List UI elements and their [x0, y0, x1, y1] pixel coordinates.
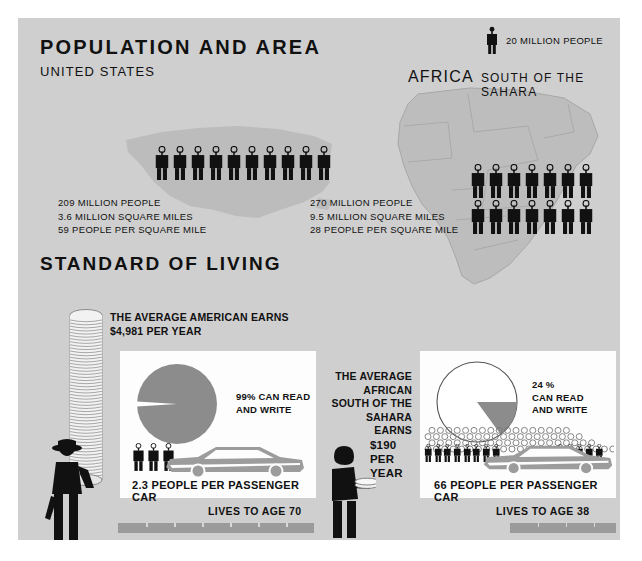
person-icon — [524, 164, 540, 198]
person-icon — [542, 200, 558, 234]
person-icon — [578, 200, 594, 234]
stat-area-africa: 9.5 MILLION SQUARE MILES — [310, 210, 458, 224]
person-icon — [434, 441, 443, 465]
literacy-us-line2: AND WRITE — [236, 404, 310, 417]
literacy-af-line1: 24 % — [532, 379, 588, 392]
person-icon — [424, 441, 433, 465]
legend: 20 MILLION PEOPLE — [485, 26, 603, 54]
decade-tick — [538, 523, 540, 527]
page-title: POPULATION AND AREA — [40, 36, 321, 59]
person-icon — [244, 146, 260, 180]
literacy-label-us: 99% CAN READ AND WRITE — [236, 391, 310, 416]
person-icon — [463, 441, 472, 465]
person-icon — [226, 146, 242, 180]
decade-tick — [566, 523, 568, 527]
person-icon — [506, 200, 522, 234]
decade-tick — [202, 523, 204, 527]
car-caption-us: 2.3 PEOPLE PER PASSENGER CAR — [132, 479, 316, 503]
decade-tick — [286, 523, 288, 527]
stats-united-states: 209 MILLION PEOPLE 3.6 MILLION SQUARE MI… — [58, 196, 206, 237]
africa-subtitle: SOUTH OF THE SAHARA — [481, 71, 620, 99]
person-icon — [506, 164, 522, 198]
earnings-af-line3: SOUTH OF THE — [328, 397, 412, 411]
stat-density-us: 59 PEOPLE PER SQUARE MILE — [58, 223, 206, 237]
person-icon — [578, 164, 594, 198]
person-icon — [470, 200, 486, 234]
person-icon — [470, 164, 486, 198]
person-icon — [472, 441, 481, 465]
person-icon — [147, 443, 160, 471]
panel-africa: 24 % CAN READ AND WRITE 66 PEOPLE PER PA… — [420, 351, 616, 498]
passenger-car-africa-icon — [482, 441, 614, 475]
person-icon — [172, 146, 188, 180]
earnings-africa: THE AVERAGE AFRICAN SOUTH OF THE SAHARA … — [328, 370, 412, 438]
earnings-af-amt1: $190 — [370, 438, 414, 452]
population-figures-us — [154, 146, 334, 180]
earnings-us-line1: THE AVERAGE AMERICAN EARNS — [110, 310, 289, 324]
panel-united-states: 99% CAN READ AND WRITE 2.3 PEOPLE PER PA… — [120, 351, 316, 498]
person-icon — [262, 146, 278, 180]
african-man-figure — [320, 443, 376, 538]
earnings-af-amt2: PER — [370, 452, 414, 466]
person-icon — [316, 146, 332, 180]
literacy-label-africa: 24 % CAN READ AND WRITE — [532, 379, 588, 417]
literacy-af-line2: CAN READ — [532, 392, 588, 405]
life-bar-us — [118, 523, 314, 533]
stats-africa: 270 MILLION PEOPLE 9.5 MILLION SQUARE MI… — [310, 196, 458, 237]
earnings-africa-amount: $190 PER YEAR — [370, 438, 414, 480]
stat-density-africa: 28 PEOPLE PER SQUARE MILE — [310, 223, 458, 237]
person-icon — [488, 200, 504, 234]
subtitle-united-states: UNITED STATES — [40, 64, 155, 79]
person-icon — [488, 164, 504, 198]
person-icon — [190, 146, 206, 180]
person-icon — [154, 146, 170, 180]
infographic-poster: 20 MILLION PEOPLE POPULATION AND AREA UN… — [18, 18, 620, 540]
stat-population-us: 209 MILLION PEOPLE — [58, 196, 206, 210]
decade-tick — [258, 523, 260, 527]
earnings-af-amt3: YEAR — [370, 466, 414, 480]
life-caption-africa: LIVES TO AGE 38 — [496, 505, 590, 517]
life-bar-africa — [510, 523, 616, 533]
person-icon — [208, 146, 224, 180]
earnings-us-line2: $4,981 PER YEAR — [110, 324, 289, 338]
life-caption-us: LIVES TO AGE 70 — [208, 505, 302, 517]
person-icon — [542, 164, 558, 198]
decade-tick — [146, 523, 148, 527]
literacy-af-line3: AND WRITE — [532, 404, 588, 417]
person-icon — [524, 200, 540, 234]
africa-title: AFRICA — [408, 68, 474, 86]
car-caption-africa: 66 PEOPLE PER PASSENGER CAR — [434, 479, 616, 503]
decade-tick — [174, 523, 176, 527]
person-icon — [132, 443, 145, 471]
literacy-pie-us — [134, 361, 220, 447]
person-icon — [560, 164, 576, 198]
decade-tick — [230, 523, 232, 527]
stat-area-us: 3.6 MILLION SQUARE MILES — [58, 210, 206, 224]
legend-label: 20 MILLION PEOPLE — [506, 35, 603, 46]
earnings-us: THE AVERAGE AMERICAN EARNS $4,981 PER YE… — [110, 310, 289, 338]
person-icon — [485, 26, 499, 54]
earnings-af-line2: AFRICAN — [328, 384, 412, 398]
earnings-af-line4: SAHARA EARNS — [328, 411, 412, 438]
person-icon — [453, 441, 462, 465]
american-man-figure — [38, 436, 112, 540]
person-icon — [298, 146, 314, 180]
literacy-us-line1: 99% CAN READ — [236, 391, 310, 404]
person-icon — [560, 200, 576, 234]
subtitle-africa: AFRICA SOUTH OF THE SAHARA — [408, 68, 620, 99]
earnings-af-line1: THE AVERAGE — [328, 370, 412, 384]
person-icon — [443, 441, 452, 465]
stat-population-africa: 270 MILLION PEOPLE — [310, 196, 458, 210]
decade-tick — [594, 523, 596, 527]
section-title-standard-of-living: STANDARD OF LIVING — [40, 253, 281, 275]
population-figures-africa-row2 — [470, 200, 596, 234]
passenger-car-us-icon — [164, 443, 306, 477]
person-icon — [280, 146, 296, 180]
population-figures-africa-row1 — [470, 164, 596, 198]
